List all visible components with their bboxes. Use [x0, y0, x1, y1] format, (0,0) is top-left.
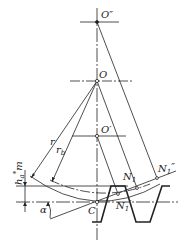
gear-rack-diagram: O″ O O′ C r rb N1 N1′ N1″ ha*m α [0, 0, 190, 242]
label-rb: rb [56, 144, 66, 157]
arrow-ham-bot [23, 202, 27, 206]
point-n1 [136, 187, 139, 190]
radius-r [31, 81, 97, 178]
label-o: O [99, 69, 107, 80]
o-double-prime-to-n1-double [97, 22, 157, 178]
label-o-double-prime: O″ [101, 9, 113, 20]
label-c: C [88, 205, 96, 216]
point-o-double [96, 21, 99, 24]
point-c [95, 200, 98, 203]
point-n1-prime [117, 193, 120, 196]
point-n1-double [156, 177, 159, 180]
label-n1: N1 [122, 171, 136, 184]
label-alpha: α [40, 204, 47, 215]
addendum-arc [30, 176, 160, 201]
label-n1-prime: N1′ [115, 198, 132, 213]
radius-rb [52, 81, 97, 182]
label-n1-double: N1″ [157, 161, 175, 176]
label-o-prime: O′ [101, 124, 112, 135]
arrow-r [31, 173, 35, 178]
point-o-prime [95, 134, 98, 137]
label-ham: ha*m [12, 161, 26, 185]
